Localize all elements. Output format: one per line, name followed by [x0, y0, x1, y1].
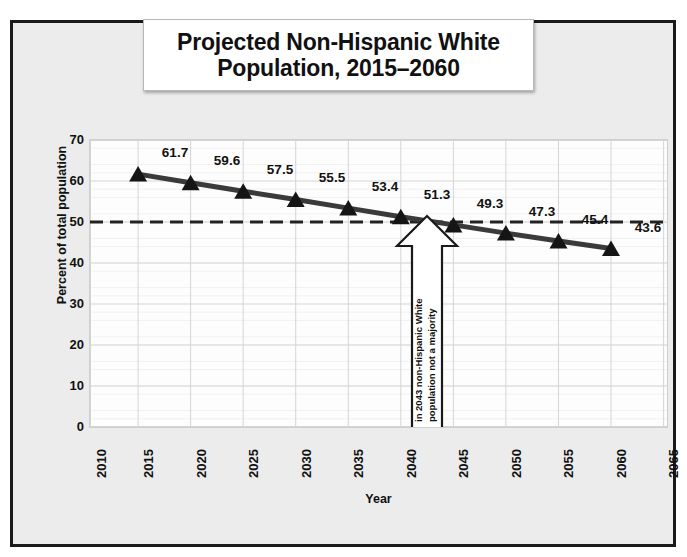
- y-tick-10: 10: [44, 378, 84, 393]
- data-label-2060: 43.6: [635, 220, 661, 235]
- y-tick-20: 20: [44, 337, 84, 352]
- x-tick-2010: 2010: [94, 449, 109, 478]
- callout-annotation-line1: in 2043 non-Hispanic White: [413, 298, 425, 422]
- data-label-2055: 45.4: [582, 212, 608, 227]
- data-label-2050: 47.3: [529, 204, 555, 219]
- x-tick-2065: 2065: [666, 449, 681, 478]
- x-tick-2060: 2060: [614, 449, 629, 478]
- callout-annotation-line2: population not a majority: [426, 309, 438, 422]
- x-axis-title: Year: [89, 492, 668, 506]
- x-tick-2050: 2050: [509, 449, 524, 478]
- data-label-2040: 51.3: [424, 187, 450, 202]
- chart-screenshot: in 2043 non-Hispanic White population no…: [0, 0, 687, 557]
- chart-title-box: Projected Non-Hispanic White Population,…: [143, 19, 534, 91]
- data-label-2035: 53.4: [372, 179, 398, 194]
- y-axis-title: Percent of total population: [55, 125, 69, 325]
- page-title: Projected Non-Hispanic White Population,…: [171, 29, 506, 82]
- data-label-2020: 59.6: [214, 153, 240, 168]
- x-tick-2020: 2020: [194, 449, 209, 478]
- x-tick-2025: 2025: [246, 449, 261, 478]
- data-label-2015: 61.7: [162, 145, 188, 160]
- x-axis-ticks: 2010 2015 2020 2025 2030 2035 2040 2045 …: [89, 430, 668, 490]
- data-label-2025: 57.5: [267, 162, 293, 177]
- x-tick-2055: 2055: [561, 449, 576, 478]
- data-label-2030: 55.5: [319, 170, 345, 185]
- x-tick-2030: 2030: [299, 449, 314, 478]
- x-tick-2015: 2015: [141, 449, 156, 478]
- x-tick-2040: 2040: [404, 449, 419, 478]
- y-tick-0: 0: [44, 419, 84, 434]
- data-label-2045: 49.3: [477, 196, 503, 211]
- x-tick-2035: 2035: [351, 449, 366, 478]
- x-tick-2045: 2045: [456, 449, 471, 478]
